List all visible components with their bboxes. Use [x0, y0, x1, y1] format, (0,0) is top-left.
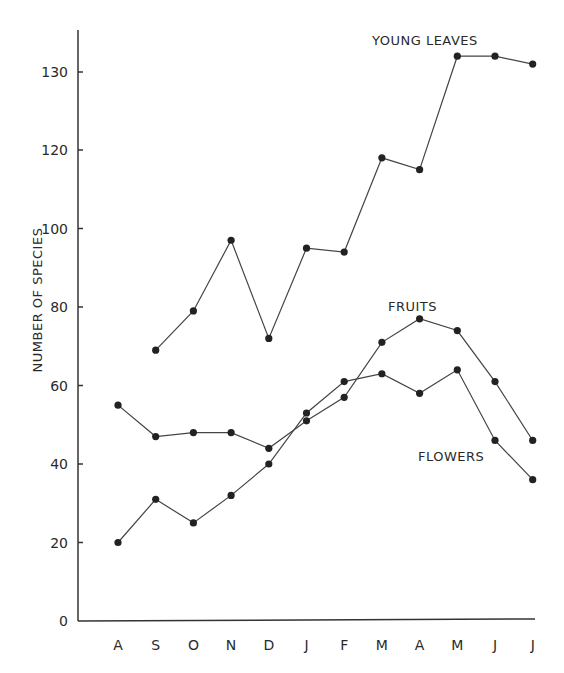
line-chart: 020406080100120130 NUMBER OF SPECIES ASO… [0, 0, 564, 673]
data-point [228, 429, 235, 436]
data-point [190, 307, 197, 314]
x-tick-label: F [340, 637, 348, 653]
data-point [454, 53, 461, 60]
y-tick-label: 100 [41, 221, 68, 237]
data-point [454, 327, 461, 334]
x-tick-label: M [451, 637, 463, 653]
data-point [303, 245, 310, 252]
data-point [491, 437, 498, 444]
data-point [228, 237, 235, 244]
data-point [114, 402, 121, 409]
data-point [152, 496, 159, 503]
data-point [378, 154, 385, 161]
data-point [114, 539, 121, 546]
data-point [416, 390, 423, 397]
y-axis-ticks: 020406080100120130 [41, 64, 83, 629]
data-point [529, 437, 536, 444]
x-tick-label: A [113, 637, 123, 653]
x-tick-label: J [492, 637, 497, 653]
series-layer [114, 53, 536, 547]
series-label-fruits: FRUITS [388, 299, 437, 314]
y-tick-label: 20 [50, 535, 68, 551]
data-point [491, 53, 498, 60]
data-point [228, 492, 235, 499]
series-label-flowers: FLOWERS [418, 449, 484, 464]
data-point [152, 433, 159, 440]
series-fruits [114, 315, 536, 452]
x-tick-label: J [530, 637, 535, 653]
data-point [491, 378, 498, 385]
x-tick-label: N [226, 637, 236, 653]
x-tick-label: D [263, 637, 274, 653]
data-point [303, 409, 310, 416]
x-tick-label: S [151, 637, 160, 653]
y-axis: 020406080100120130 NUMBER OF SPECIES [30, 30, 83, 629]
data-point [529, 61, 536, 68]
y-tick-label: 120 [41, 142, 68, 158]
data-point [303, 417, 310, 424]
x-axis: ASONDJFMAMJJ [78, 619, 535, 653]
data-point [341, 248, 348, 255]
y-tick-label: 130 [41, 64, 68, 80]
data-point [378, 370, 385, 377]
data-point [152, 347, 159, 354]
x-tick-label: A [415, 637, 425, 653]
series-young-leaves [152, 53, 536, 354]
series-line [118, 319, 533, 449]
x-axis-line [78, 619, 535, 621]
y-tick-label: 60 [50, 378, 68, 394]
series-line [156, 56, 533, 350]
data-point [265, 445, 272, 452]
x-tick-label: M [376, 637, 388, 653]
y-tick-label: 80 [50, 299, 68, 315]
x-axis-labels: ASONDJFMAMJJ [113, 637, 535, 653]
data-point [416, 315, 423, 322]
data-point [416, 166, 423, 173]
series-label-young-leaves: YOUNG LEAVES [371, 33, 478, 48]
data-point [265, 335, 272, 342]
data-point [454, 366, 461, 373]
data-point [341, 378, 348, 385]
data-point [529, 476, 536, 483]
data-point [190, 519, 197, 526]
y-tick-label: 0 [59, 613, 68, 629]
y-tick-label: 40 [50, 456, 68, 472]
y-axis-title: NUMBER OF SPECIES [30, 228, 45, 373]
x-tick-label: O [188, 637, 199, 653]
data-point [265, 460, 272, 467]
x-tick-label: J [303, 637, 308, 653]
data-point [378, 339, 385, 346]
data-point [341, 394, 348, 401]
data-point [190, 429, 197, 436]
